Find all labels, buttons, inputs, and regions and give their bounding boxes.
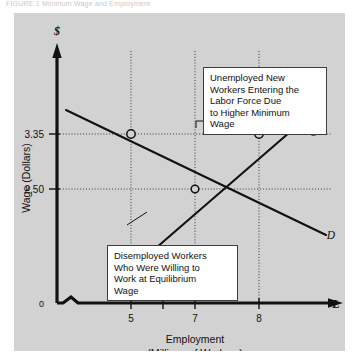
marker-quantity-demanded xyxy=(127,130,135,138)
callout-line: Unemployed New xyxy=(210,72,321,84)
x-axis-symbol: L xyxy=(331,297,339,311)
x-tick-label-4: 8 xyxy=(256,313,262,324)
callout-line: Work at Equilibrium xyxy=(114,273,232,285)
callout-line: Labor Force Due xyxy=(210,95,321,107)
callout-line: Wage xyxy=(114,285,232,297)
figure-container: FIGURE 1 Minimum Wage and Employment xyxy=(0,0,355,364)
y-axis-symbol: $ xyxy=(53,24,60,38)
chart-panel: 3.35 2.50 5 7 8 0 $ L S D Employment (Mi… xyxy=(14,13,345,351)
callout-line: Who Were Willing to xyxy=(114,262,232,274)
origin-label: 0 xyxy=(39,299,44,309)
callout-line: Wage xyxy=(210,118,321,130)
unemployed-new-workers-callout: Unemployed New Workers Entering the Labo… xyxy=(203,67,327,135)
x-axis-title: Employment xyxy=(166,333,224,345)
demand-curve-label: D xyxy=(326,229,336,241)
callout-line: Disemployed Workers xyxy=(114,250,232,262)
figure-caption-strip: FIGURE 1 Minimum Wage and Employment xyxy=(0,0,355,13)
x-axis-subtitle: (Millions of Workers) xyxy=(147,347,242,351)
y-axis-title: Wage (Dollars) xyxy=(20,143,32,213)
marker-equilibrium xyxy=(191,185,199,193)
y-tick-label-1: 3.35 xyxy=(25,129,45,140)
x-tick-label-1: 5 xyxy=(128,313,134,324)
figure-caption-text: FIGURE 1 Minimum Wage and Employment xyxy=(6,0,150,7)
x-tick-label-3: 7 xyxy=(192,313,198,324)
callout-line: Workers Entering the xyxy=(210,84,321,96)
supply-curve xyxy=(149,119,305,254)
callout-line: to Higher Minimum xyxy=(210,107,321,119)
leader-line-disemployed xyxy=(127,212,147,225)
disemployed-workers-callout: Disemployed Workers Who Were Willing to … xyxy=(107,245,238,301)
y-axis-arrowhead xyxy=(52,43,61,58)
